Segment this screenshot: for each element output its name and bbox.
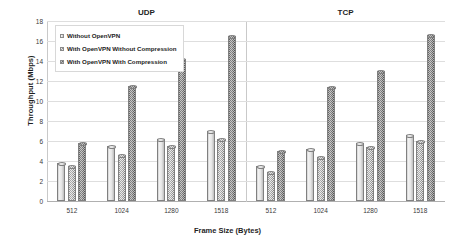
legend-swatch-with-openvpn-without-compression bbox=[60, 47, 64, 51]
y-tick-label: 4 bbox=[21, 158, 43, 165]
bar bbox=[406, 135, 414, 201]
bar-cap bbox=[218, 138, 226, 142]
x-tick-label: 1518 bbox=[400, 207, 440, 214]
legend-item: With OpenVPN Without Compression bbox=[60, 42, 177, 55]
bar bbox=[118, 155, 126, 201]
throughput-bar-chart: Throughput (Mbps) 024681012141618 UDP TC… bbox=[0, 0, 455, 244]
bar-group bbox=[296, 21, 346, 201]
legend-swatch-with-openvpn-with-compression bbox=[60, 60, 64, 64]
legend-label: With OpenVPN With Compression bbox=[67, 58, 167, 65]
bar-group bbox=[395, 21, 445, 201]
y-tick-label: 18 bbox=[21, 18, 43, 25]
legend-item: Without OpenVPN bbox=[60, 29, 177, 42]
bar bbox=[356, 143, 364, 201]
bar-cap bbox=[228, 35, 236, 39]
panel-title-udp: UDP bbox=[47, 8, 246, 17]
bar bbox=[427, 35, 435, 201]
x-tick-label: 1024 bbox=[301, 207, 341, 214]
legend-swatch-without-openvpn bbox=[60, 34, 64, 38]
bar bbox=[366, 147, 374, 201]
y-tick-label: 14 bbox=[21, 58, 43, 65]
y-tick-label: 8 bbox=[21, 118, 43, 125]
bar bbox=[327, 87, 335, 201]
bar-cap bbox=[356, 142, 364, 146]
bar bbox=[217, 139, 225, 201]
bar bbox=[167, 146, 175, 201]
x-tick-label: 512 bbox=[251, 207, 291, 214]
bar bbox=[377, 71, 385, 201]
bar-group bbox=[246, 21, 296, 201]
y-tick-label: 0 bbox=[21, 198, 43, 205]
legend-item: With OpenVPN With Compression bbox=[60, 55, 177, 68]
bar bbox=[157, 139, 165, 201]
bar bbox=[306, 149, 314, 201]
bar bbox=[256, 166, 264, 201]
bar-cap bbox=[257, 165, 265, 169]
bar-cap bbox=[307, 148, 315, 152]
bar bbox=[68, 166, 76, 201]
y-tick-label: 12 bbox=[21, 78, 43, 85]
bar bbox=[178, 59, 186, 201]
y-tick-label: 16 bbox=[21, 38, 43, 45]
legend-label: Without OpenVPN bbox=[67, 32, 120, 39]
bar-cap bbox=[427, 34, 435, 38]
bar-cap bbox=[377, 70, 385, 74]
bar-cap bbox=[79, 142, 87, 146]
x-tick-label: 1280 bbox=[350, 207, 390, 214]
legend: Without OpenVPN With OpenVPN Without Com… bbox=[55, 25, 184, 72]
bar-cap bbox=[118, 154, 126, 158]
panel-title-tcp: TCP bbox=[246, 8, 445, 17]
bar bbox=[317, 157, 325, 201]
bar-group bbox=[346, 21, 396, 201]
bar-cap bbox=[328, 86, 336, 90]
bar-cap bbox=[406, 134, 414, 138]
bar-cap bbox=[207, 130, 215, 134]
bar bbox=[78, 143, 86, 201]
bar-cap bbox=[68, 165, 76, 169]
bar-cap bbox=[267, 171, 275, 175]
bar-cap bbox=[317, 156, 325, 160]
legend-label: With OpenVPN Without Compression bbox=[67, 45, 177, 52]
x-axis-title: Frame Size (Bytes) bbox=[0, 226, 455, 235]
bar bbox=[128, 86, 136, 201]
y-axis-tick-labels: 024681012141618 bbox=[19, 21, 43, 202]
bar bbox=[267, 172, 275, 201]
bar-cap bbox=[417, 140, 425, 144]
bar bbox=[57, 163, 65, 201]
bar bbox=[416, 141, 424, 201]
x-tick-label: 1518 bbox=[201, 207, 241, 214]
bar-cap bbox=[58, 162, 66, 166]
y-tick-label: 2 bbox=[21, 178, 43, 185]
bar-cap bbox=[108, 145, 116, 149]
bar-cap bbox=[129, 85, 137, 89]
bar bbox=[107, 146, 115, 201]
bar-group bbox=[196, 21, 246, 201]
x-tick-label: 512 bbox=[52, 207, 92, 214]
bar bbox=[228, 36, 236, 201]
x-tick-label: 1280 bbox=[151, 207, 191, 214]
x-tick-label: 1024 bbox=[102, 207, 142, 214]
y-tick-label: 6 bbox=[21, 138, 43, 145]
bar-cap bbox=[367, 146, 375, 150]
bar bbox=[207, 131, 215, 201]
bar-cap bbox=[278, 150, 286, 154]
bar-cap bbox=[157, 138, 165, 142]
y-tick-label: 10 bbox=[21, 98, 43, 105]
bar-cap bbox=[168, 145, 176, 149]
bar bbox=[277, 151, 285, 201]
